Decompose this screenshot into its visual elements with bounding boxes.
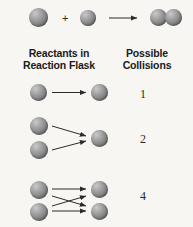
row2-left-sphere-1 (30, 117, 48, 135)
header-collisions-line2: Collisions (108, 59, 186, 72)
row2-collision-count: 2 (132, 133, 154, 145)
equation-reactant-a-sphere (29, 8, 48, 27)
equation-product-sphere-right (165, 9, 182, 26)
row3-left-sphere-1 (30, 181, 48, 199)
collision-theory-diagram: + Reactants in Reaction Flask Possible C… (0, 0, 193, 227)
row1-right-sphere-1 (91, 84, 108, 101)
row2-left-sphere-2 (30, 141, 48, 159)
row1-collision-count: 1 (132, 88, 154, 100)
row3-collision-count: 4 (132, 190, 154, 202)
header-reactants-line1: Reactants in (14, 47, 104, 60)
row3-right-sphere-1 (91, 181, 108, 198)
row3-arrow-cross-up (52, 196, 86, 206)
equation-reactant-b-sphere (80, 10, 96, 26)
row2-arrow-1 (52, 126, 86, 136)
row3-left-sphere-2 (30, 203, 48, 221)
header-reactants-line2: Reaction Flask (14, 59, 104, 72)
equation-plus-sign: + (62, 13, 68, 24)
row2-right-sphere-1 (91, 130, 108, 147)
row2-arrow-2 (52, 141, 86, 150)
row1-left-sphere-1 (30, 84, 47, 101)
row3-right-sphere-2 (91, 203, 108, 220)
header-collisions-line1: Possible (108, 47, 186, 60)
row3-arrow-cross-down (52, 196, 86, 206)
